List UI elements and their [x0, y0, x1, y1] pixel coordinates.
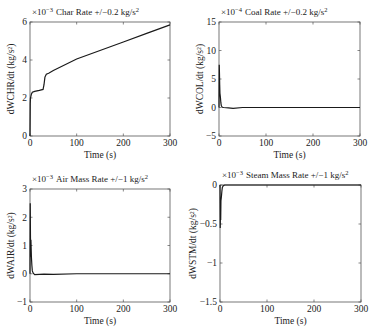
x-tick-label: 0 — [28, 138, 33, 148]
y-tick-label: 0 — [211, 103, 216, 113]
y-tick-label: 1 — [22, 241, 27, 251]
y-axis-label: dWAIR/dt (kg/s²) — [6, 212, 17, 278]
data-series-line — [219, 65, 360, 109]
y-tick-label: 15 — [207, 17, 217, 27]
plot-char-rate: 01002003000246×10−3Char Rate +/−0.2 kg/s… — [0, 0, 186, 166]
y-tick-label: 10 — [207, 46, 217, 56]
x-tick-label: 300 — [163, 138, 178, 148]
y-axis-label: dWCOL/dt (kg/s²) — [195, 44, 206, 114]
chart-steam-mass-rate: 0100200300−1.5−1−0.50×10−3Steam Mass Rat… — [186, 166, 372, 332]
x-tick-label: 200 — [307, 304, 322, 314]
x-tick-label: 0 — [218, 304, 223, 314]
x-tick-label: 0 — [28, 304, 33, 314]
x-tick-label: 100 — [260, 304, 275, 314]
axes-frame — [30, 189, 170, 302]
plot-air-mass-rate: 0100200300−10123×10−3Air Mass Rate +/−1 … — [0, 166, 186, 332]
chart-title: ×10−3Char Rate +/−0.2 kg/s2 — [32, 6, 139, 18]
y-tick-label: 3 — [22, 184, 27, 194]
y-tick-label: −1 — [207, 258, 217, 268]
axes-frame — [219, 22, 360, 136]
chart-title: ×10−4Coal Rate +/−0.2 kg/s2 — [221, 6, 327, 18]
x-axis-label: Time (s) — [274, 316, 306, 327]
y-axis-label: dWCHR/dt (kg/s²) — [6, 44, 17, 115]
chart-air-mass-rate: 0100200300−10123×10−3Air Mass Rate +/−1 … — [0, 166, 186, 332]
x-tick-label: 300 — [353, 138, 368, 148]
y-tick-label: −1 — [17, 297, 27, 307]
x-tick-label: 100 — [70, 138, 85, 148]
x-tick-label: 100 — [70, 304, 85, 314]
x-tick-label: 0 — [217, 138, 222, 148]
x-tick-label: 100 — [259, 138, 274, 148]
x-axis-label: Time (s) — [84, 150, 116, 161]
plot-coal-rate: 0100200300−5051015×10−4Coal Rate +/−0.2 … — [186, 0, 372, 166]
y-tick-label: 0 — [22, 131, 27, 141]
axes-frame — [220, 185, 361, 302]
y-tick-label: −5 — [206, 131, 216, 141]
x-axis-label: Time (s) — [273, 150, 305, 161]
x-tick-label: 300 — [354, 304, 369, 314]
data-series-line — [30, 203, 170, 274]
y-tick-label: 6 — [22, 17, 27, 27]
y-tick-label: 2 — [22, 93, 27, 103]
chart-title: ×10−3Air Mass Rate +/−1 kg/s2 — [32, 173, 148, 185]
y-tick-label: −1.5 — [200, 297, 217, 307]
y-tick-label: 0 — [22, 269, 27, 279]
y-tick-label: −0.5 — [200, 219, 217, 229]
x-axis-label: Time (s) — [84, 316, 116, 327]
data-series-line — [220, 185, 361, 228]
y-axis-label: dWSTM/dt (kg/s²) — [188, 208, 199, 279]
chart-title: ×10−3Steam Mass Rate +/−1 kg/s2 — [222, 169, 348, 181]
plot-steam-mass-rate: 0100200300−1.5−1−0.50×10−3Steam Mass Rat… — [186, 166, 372, 332]
chart-char-rate: 01002003000246×10−3Char Rate +/−0.2 kg/s… — [0, 0, 186, 166]
y-tick-label: 2 — [22, 213, 27, 223]
y-tick-label: 0 — [212, 180, 217, 190]
y-tick-label: 4 — [22, 55, 27, 65]
x-tick-label: 200 — [116, 138, 131, 148]
data-series-line — [30, 25, 170, 136]
x-tick-label: 200 — [116, 304, 131, 314]
x-tick-label: 200 — [306, 138, 321, 148]
axes-frame — [30, 22, 170, 136]
chart-coal-rate: 0100200300−5051015×10−4Coal Rate +/−0.2 … — [186, 0, 372, 166]
y-tick-label: 5 — [211, 74, 216, 84]
x-tick-label: 300 — [163, 304, 178, 314]
